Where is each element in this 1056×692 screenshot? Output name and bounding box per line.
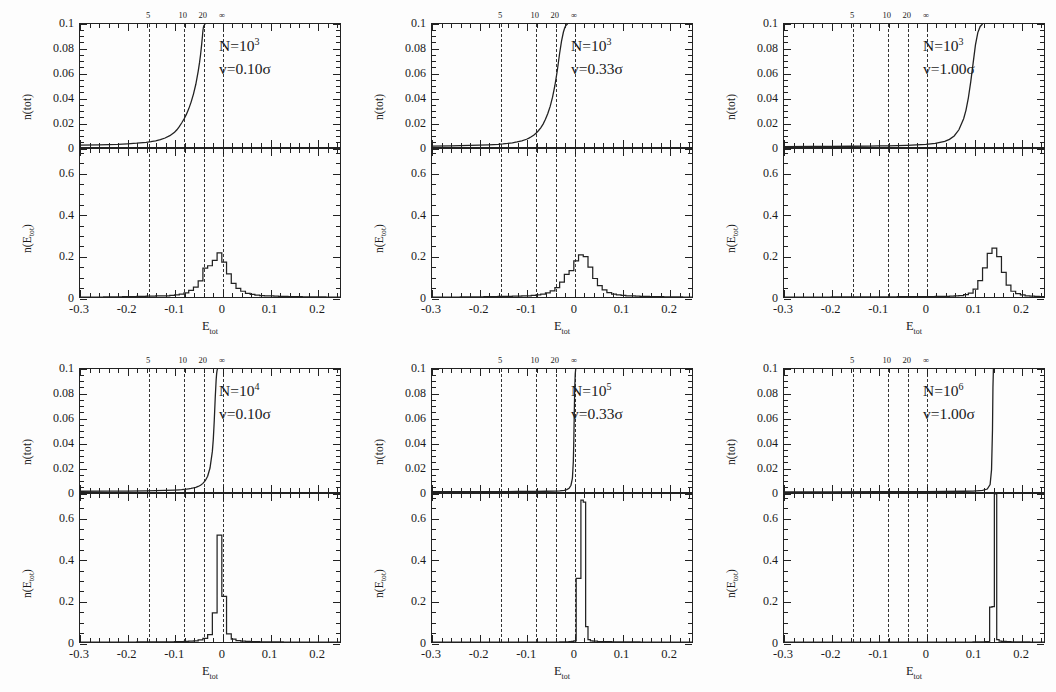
axis-tick	[1041, 638, 1042, 642]
axis-tick	[784, 400, 788, 401]
axis-tick	[898, 638, 899, 642]
axis-tick	[803, 369, 804, 373]
axis-tick	[813, 369, 814, 373]
axis-tick	[1037, 394, 1044, 395]
axis-tick	[1041, 369, 1042, 373]
axis-tick	[784, 571, 788, 572]
axis-tick	[813, 638, 814, 642]
xtick-label: 0.1	[949, 647, 999, 662]
axis-tick	[965, 369, 966, 373]
axis-tick	[984, 494, 985, 498]
axis-tick	[870, 369, 871, 373]
axis-tick	[917, 638, 918, 642]
axis-tick	[936, 494, 937, 498]
axis-tick	[813, 494, 814, 498]
axis-tick	[841, 638, 842, 642]
axis-tick	[784, 635, 785, 642]
axis-tick	[784, 644, 791, 645]
axis-tick	[784, 406, 788, 407]
axis-tick	[1022, 494, 1023, 501]
top-axis-label-3: ∞	[911, 355, 941, 365]
v-label: v=1.00σ	[923, 405, 975, 422]
upper-ytick-label: 0	[735, 486, 778, 501]
axis-tick	[822, 494, 823, 498]
axis-tick	[851, 494, 852, 498]
axis-tick	[936, 638, 937, 642]
axis-tick	[822, 369, 823, 373]
n-label: N=106	[923, 382, 963, 399]
axis-tick	[879, 635, 880, 642]
axis-tick	[889, 369, 890, 373]
axis-tick	[1040, 375, 1044, 376]
figure-root: 00.020.040.060.080.100.20.40.6-0.3-0.2-0…	[0, 0, 1056, 692]
axis-tick	[898, 494, 899, 498]
axis-tick	[984, 369, 985, 373]
axis-tick	[975, 369, 976, 376]
axis-tick	[870, 638, 871, 642]
axis-tick	[784, 394, 791, 395]
axis-tick	[1037, 369, 1044, 370]
axis-tick	[784, 560, 791, 561]
axis-tick	[813, 488, 814, 492]
axis-tick	[803, 494, 804, 498]
axis-tick	[1003, 369, 1004, 373]
axis-tick	[784, 462, 788, 463]
xtick-label: 0	[901, 647, 951, 662]
axis-tick	[1003, 488, 1004, 492]
axis-tick	[994, 488, 995, 492]
axis-tick	[1037, 644, 1044, 645]
axis-tick	[860, 494, 861, 498]
axis-tick	[936, 488, 937, 492]
axis-tick	[908, 488, 909, 492]
axis-tick	[784, 431, 788, 432]
upper-ytick-label: 0.08	[735, 386, 778, 401]
axis-tick	[1022, 485, 1023, 492]
axis-tick	[908, 494, 909, 498]
axis-tick	[908, 369, 909, 373]
axis-tick	[784, 487, 788, 488]
axis-tick	[984, 638, 985, 642]
axis-tick	[1040, 450, 1044, 451]
xlabel: Etot	[874, 664, 954, 681]
axis-tick	[1040, 437, 1044, 438]
axis-tick	[784, 450, 788, 451]
axis-tick	[1040, 406, 1044, 407]
axis-tick	[822, 488, 823, 492]
xtick-label: -0.1	[853, 647, 903, 662]
axis-tick	[946, 369, 947, 373]
axis-tick	[784, 498, 788, 499]
axis-tick	[784, 602, 791, 603]
axis-tick	[794, 369, 795, 373]
axis-tick	[784, 529, 788, 530]
axis-tick	[1037, 602, 1044, 603]
axis-tick	[1032, 494, 1033, 498]
lower-ytick-label: 0.4	[735, 553, 778, 568]
xtick-label: -0.2	[806, 647, 856, 662]
axis-tick	[927, 369, 928, 376]
axis-tick	[841, 494, 842, 498]
axis-tick	[784, 387, 788, 388]
axis-tick	[1013, 638, 1014, 642]
axis-tick	[803, 488, 804, 492]
axis-tick	[946, 494, 947, 498]
axis-tick	[1032, 369, 1033, 373]
lower-plot-area	[784, 494, 1044, 642]
axis-tick	[1040, 487, 1044, 488]
axis-tick	[1040, 581, 1044, 582]
axis-tick	[1041, 488, 1042, 492]
axis-tick	[784, 539, 788, 540]
upper-ytick-label: 0.04	[735, 436, 778, 451]
upper-ytick-label: 0.06	[735, 411, 778, 426]
axis-tick	[927, 485, 928, 492]
axis-tick	[1040, 431, 1044, 432]
axis-tick	[1040, 529, 1044, 530]
axis-tick	[784, 612, 788, 613]
axis-tick	[851, 488, 852, 492]
axis-tick	[784, 623, 788, 624]
axis-tick	[1040, 456, 1044, 457]
axis-tick	[1040, 462, 1044, 463]
axis-tick	[832, 635, 833, 642]
axis-tick	[975, 485, 976, 492]
axis-tick	[784, 581, 788, 582]
axis-tick	[955, 488, 956, 492]
